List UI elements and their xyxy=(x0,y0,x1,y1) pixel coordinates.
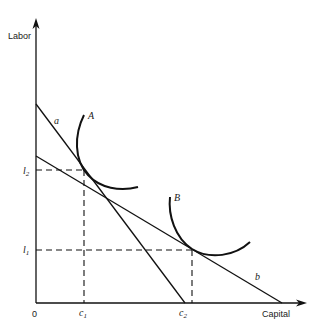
origin-label: 0 xyxy=(32,309,37,319)
x-tick-c2: c2 xyxy=(179,307,187,320)
isocost-label-b: b xyxy=(255,271,260,282)
isoquant-diagram: Labor Capital 0 a b A B l2 l1 c1 c2 xyxy=(0,0,323,329)
axes xyxy=(33,18,308,307)
x-tick-c1: c1 xyxy=(79,307,87,320)
isocost-label-a: a xyxy=(54,115,59,126)
y-tick-l2: l2 xyxy=(23,165,30,178)
y-tick-l1: l1 xyxy=(23,244,29,257)
isoquant-curve-B xyxy=(170,197,250,255)
y-axis-label: Labor xyxy=(8,31,31,41)
x-axis-label: Capital xyxy=(262,309,290,319)
isocost-line-a xyxy=(36,104,185,303)
isoquant-curve-A xyxy=(77,115,138,189)
isoquant-label-B: B xyxy=(174,192,180,203)
isoquant-label-A: A xyxy=(87,110,95,121)
isocost-line-b xyxy=(36,156,282,303)
